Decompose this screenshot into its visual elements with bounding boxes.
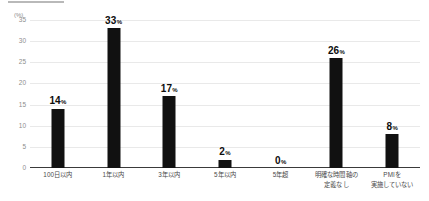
y-axis-tick-label: 10	[19, 122, 26, 129]
category-label-line: 3年以内	[141, 170, 197, 180]
percent-sign: %	[172, 87, 177, 93]
bar-value-label: 17%	[161, 84, 178, 94]
x-axis-category-label: 5年超	[253, 170, 309, 180]
percent-sign: %	[392, 125, 397, 131]
bar-value-label: 8%	[386, 122, 397, 132]
bar-series: 14%33%17%2%0%26%8%	[30, 20, 420, 168]
x-axis-category-labels: 100日以内1年以内3年以内5年以内5年超明確な時間軸の定義なしPMIを実施して…	[30, 170, 420, 198]
bar[interactable]	[163, 96, 176, 168]
category-label-line: PMIを	[364, 170, 420, 180]
bar[interactable]	[51, 109, 64, 168]
category-label-line: 5年以内	[197, 170, 253, 180]
bar[interactable]	[218, 160, 231, 168]
percent-sign: %	[225, 150, 230, 156]
bar-slot: 17%	[141, 20, 197, 168]
bar-value-label: 33%	[105, 16, 122, 26]
x-axis-category-label: 1年以内	[86, 170, 142, 180]
cut-off-rule	[8, 1, 64, 3]
y-axis-tick-label: 30	[19, 38, 26, 45]
category-label-line: 実施していない	[364, 180, 420, 190]
x-axis-category-label: 100日以内	[30, 170, 86, 180]
y-axis-tick-label: 15	[19, 101, 26, 108]
bar-slot: 0%	[253, 20, 309, 168]
percent-sign: %	[339, 49, 344, 55]
bar-slot: 14%	[30, 20, 86, 168]
y-axis-tick-label: 20	[19, 80, 26, 87]
percent-sign: %	[281, 159, 286, 165]
bar-slot: 2%	[197, 20, 253, 168]
x-axis-category-label: 明確な時間軸の定義なし	[309, 170, 365, 190]
x-axis-category-label: PMIを実施していない	[364, 170, 420, 190]
x-axis-category-label: 5年以内	[197, 170, 253, 180]
cut-off-content-strip	[0, 0, 429, 6]
bar[interactable]	[386, 134, 399, 168]
bar-value-label: 0%	[275, 156, 286, 166]
y-axis-tick-label: 5	[22, 144, 26, 151]
plot-area: 05101520253035 14%33%17%2%0%26%8%	[30, 20, 420, 168]
category-label-line: 定義なし	[309, 180, 365, 190]
bar-value-label: 2%	[219, 147, 230, 157]
category-label-line: 明確な時間軸の	[309, 170, 365, 180]
x-axis-category-label: 3年以内	[141, 170, 197, 180]
percent-sign: %	[117, 19, 122, 25]
y-axis-tick-label: 25	[19, 59, 26, 66]
bar[interactable]	[330, 58, 343, 168]
bar-slot: 33%	[86, 20, 142, 168]
bar-slot: 8%	[364, 20, 420, 168]
y-axis-tick-label: 35	[19, 17, 26, 24]
bar-value-label: 26%	[328, 46, 345, 56]
bar[interactable]	[107, 28, 120, 168]
bar-value-label: 14%	[49, 96, 66, 106]
y-axis-tick-label: 0	[22, 165, 26, 172]
percent-sign: %	[61, 99, 66, 105]
category-label-line: 5年超	[253, 170, 309, 180]
category-label-line: 1年以内	[86, 170, 142, 180]
category-label-line: 100日以内	[30, 170, 86, 180]
bar-slot: 26%	[309, 20, 365, 168]
chart-figure: (%) 05101520253035 14%33%17%2%0%26%8% 10…	[0, 0, 429, 201]
